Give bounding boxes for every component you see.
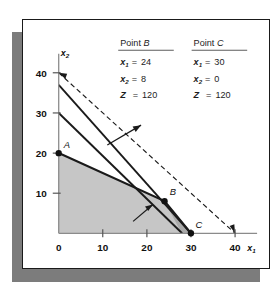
legend-col-1-row-1: x2=0 — [193, 74, 220, 85]
point-a-marker — [56, 150, 62, 156]
y-tick-label-40: 40 — [36, 68, 48, 79]
point-b-label: B — [170, 186, 176, 197]
point-c-marker — [188, 230, 194, 236]
point-c-label: C — [196, 219, 203, 230]
point-a-label: A — [63, 139, 70, 150]
objective-arrow-y-axis-head — [59, 73, 67, 79]
legend-col-0-row-1: x2=8 — [119, 74, 146, 85]
legend-col-1-header: Point C — [194, 38, 224, 48]
figure-panel: 10 20 30 40 0 10 20 30 40 x2 x1 A B C — [22, 19, 270, 269]
figure-root: 10 20 30 40 0 10 20 30 40 x2 x1 A B C — [0, 0, 280, 298]
y-tick-label-30: 30 — [36, 108, 48, 119]
point-b-marker — [161, 198, 167, 204]
y-tick-label-20: 20 — [36, 148, 48, 159]
x-tick-label-30: 30 — [185, 242, 197, 253]
legend-col-0-header: Point B — [120, 38, 149, 48]
y-axis-label: x2 — [60, 48, 70, 59]
x-tick-label-20: 20 — [141, 242, 153, 253]
x-tick-label-40: 40 — [230, 242, 242, 253]
x-tick-label-0: 0 — [56, 242, 62, 253]
y-tick-label-10: 10 — [36, 188, 48, 199]
lp-graph-svg: 10 20 30 40 0 10 20 30 40 x2 x1 A B C — [23, 20, 269, 268]
legend-col-0-row-2: Z=120 — [119, 90, 157, 100]
plot-area: 10 20 30 40 0 10 20 30 40 x2 x1 A B C — [23, 20, 269, 268]
x-axis-label: x1 — [246, 243, 256, 254]
x-tick-label-10: 10 — [97, 242, 109, 253]
improvement-arrow-upper — [107, 125, 141, 145]
legend-col-1-row-0: x1=30 — [193, 57, 225, 68]
legend-col-0-row-0: x1=24 — [119, 57, 151, 68]
legend-col-1-row-2: Z=120 — [193, 90, 231, 100]
